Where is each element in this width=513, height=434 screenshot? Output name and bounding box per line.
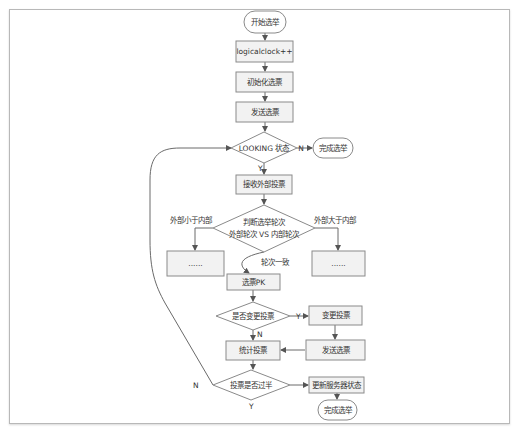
- node-majority-label: 投票是否过半: [230, 380, 273, 390]
- label-change-yes: Y: [295, 312, 301, 321]
- node-judge-round-label-2: 外部轮次 VS 内部轮次: [229, 229, 301, 239]
- node-left-box-label: ......: [188, 259, 202, 268]
- node-right-box: ......: [312, 251, 365, 276]
- node-receive: 接收外部投票: [236, 175, 292, 194]
- node-start-label: 开始选举: [251, 17, 280, 27]
- node-right-box-label: ......: [331, 259, 345, 268]
- node-finish-top: 完成选举: [313, 138, 353, 158]
- node-logicalclock: logicalclock++: [236, 41, 293, 62]
- node-start: 开始选举: [244, 11, 286, 33]
- label-round-equal: 轮次一致: [261, 257, 290, 267]
- node-judge-round-label-1: 判断选举轮次: [243, 217, 286, 227]
- label-ext-greater: 外部大于内部: [314, 215, 357, 225]
- node-send-vote: 发送选票: [236, 102, 293, 122]
- label-majority-yes: Y: [248, 402, 254, 411]
- node-left-box: ......: [167, 251, 224, 276]
- label-looking-no: N: [298, 144, 304, 153]
- flowchart-canvas: 开始选举 logicalclock++ 初始化选票 发送选票 LOOKING 状…: [0, 0, 513, 434]
- node-change-question-label: 是否变更投票: [232, 311, 275, 321]
- node-send-vote-label: 发送选票: [251, 107, 280, 117]
- label-looking-yes: Y: [257, 164, 263, 173]
- node-init-vote: 初始化选票: [236, 72, 293, 92]
- node-update-state: 更新服务器状态: [309, 377, 364, 393]
- node-majority: 投票是否过半: [213, 370, 290, 400]
- node-update-state-label: 更新服务器状态: [312, 380, 362, 390]
- node-count: 统计投票: [226, 341, 280, 360]
- node-receive-label: 接收外部投票: [243, 179, 286, 189]
- label-majority-no: N: [193, 381, 199, 390]
- node-looking: LOOKING 状态: [231, 132, 297, 163]
- edge-judge-left: [195, 228, 213, 250]
- node-send-vote-2-label: 发送选票: [322, 345, 351, 355]
- node-pk: 选票PK: [227, 274, 280, 290]
- node-change-vote-label: 变更投票: [322, 310, 351, 320]
- node-send-vote-2: 发送选票: [306, 340, 365, 360]
- edge-judge-right: [315, 228, 338, 250]
- node-change-question: 是否变更投票: [216, 302, 290, 330]
- node-count-label: 统计投票: [239, 345, 268, 355]
- node-change-vote: 变更投票: [309, 306, 362, 325]
- node-init-vote-label: 初始化选票: [247, 77, 283, 87]
- node-finish-bottom: 完成选举: [318, 400, 357, 420]
- node-finish-top-label: 完成选举: [319, 143, 348, 153]
- node-finish-bottom-label: 完成选举: [324, 405, 353, 415]
- node-judge-round: 判断选举轮次 外部轮次 VS 内部轮次: [213, 205, 315, 252]
- label-ext-less: 外部小于内部: [170, 215, 213, 225]
- node-pk-label: 选票PK: [242, 277, 267, 287]
- label-change-no: N: [257, 330, 263, 339]
- node-logicalclock-label: logicalclock++: [236, 47, 292, 56]
- node-looking-label: LOOKING 状态: [239, 143, 291, 153]
